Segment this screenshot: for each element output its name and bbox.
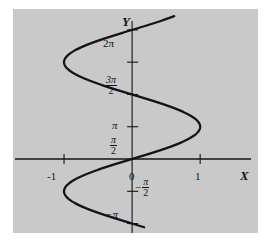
y-tick-label-two-pi: 2π: [103, 38, 114, 49]
origin-label: 0: [129, 171, 135, 182]
x-tick-label-neg-1: -1: [47, 171, 56, 182]
y-tick-label-pi: π: [112, 120, 118, 131]
fraction-denominator: 2: [142, 188, 149, 198]
plot-svg: [13, 9, 258, 233]
y-axis-label: Y: [122, 15, 130, 28]
y-tick-label-neg-pi: −π: [105, 209, 118, 220]
fraction-pi-over-2-negative: π 2: [142, 177, 149, 198]
minus-sign: −: [135, 182, 142, 193]
plot-panel: Y X 0 -1 1 2π 3π 2 π π 2 − π 2: [13, 9, 258, 233]
fraction-pi-over-2: π 2: [110, 135, 117, 156]
y-tick-label-neg-pi-over-two: − π 2: [135, 177, 149, 198]
fraction-denominator: 2: [105, 86, 117, 96]
x-axis-label: X: [240, 169, 249, 182]
y-tick-label-pi-over-two: π 2: [110, 135, 117, 156]
fraction-3pi-over-2: 3π 2: [105, 75, 117, 96]
fraction-denominator: 2: [110, 146, 117, 156]
x-tick-label-pos-1: 1: [195, 171, 201, 182]
figure-root: Y X 0 -1 1 2π 3π 2 π π 2 − π 2: [0, 0, 269, 248]
y-tick-label-three-pi-over-two: 3π 2: [105, 75, 117, 96]
